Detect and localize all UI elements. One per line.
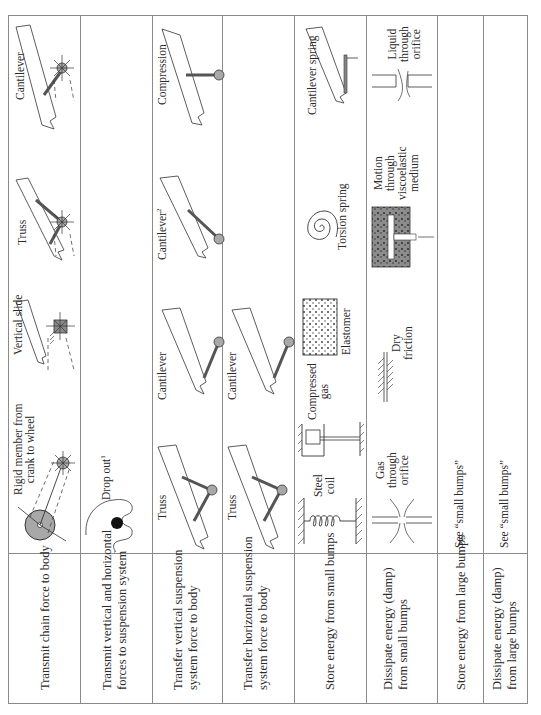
function-label-transmit-forces: Transmit vertical and horizontalforces t…	[100, 530, 129, 690]
dry-friction-sketch-icon	[376, 350, 396, 405]
torsion-spring-sketch-icon	[300, 205, 340, 250]
truss-sketch-icon	[226, 445, 291, 550]
cantilever-sketch-icon	[156, 168, 221, 273]
steel-coil-sketch-icon	[298, 498, 364, 550]
function-label-store-large: Store energy from large bumps	[454, 535, 469, 690]
compression-sketch-icon	[156, 25, 221, 130]
concept-label-compressed-gas: Compressedgas	[306, 363, 330, 420]
drop-out-sketch-icon	[84, 480, 144, 552]
function-label-dissipate-small: Dissipate energy (damp)from small bumps	[381, 567, 410, 690]
vertical-slide-sketch-icon	[14, 290, 76, 390]
concept-label-viscoelastic: Motionthroughviscoelasticmedium	[372, 146, 420, 200]
cantilever-spring-sketch-icon	[304, 25, 364, 105]
row-divider	[80, 15, 81, 704]
function-label-dissipate-large: Dissipate energy (damp)from large bumps	[490, 567, 519, 690]
crank-wheel-sketch-icon	[14, 445, 76, 550]
truss-sketch-icon	[14, 170, 76, 270]
cantilever-sketch-icon	[14, 25, 76, 135]
elastomer-sketch-icon	[302, 298, 338, 358]
function-label-transmit-chain: Transmit chain force to body	[38, 545, 53, 690]
truss-sketch-icon	[156, 445, 221, 550]
concept-label-liquid-orifice: Liquidthroughorifice	[386, 26, 422, 62]
cantilever-sketch-icon	[226, 300, 291, 405]
row-divider	[437, 15, 438, 704]
gas-orifice-sketch-icon	[370, 495, 434, 551]
concept-label-see-small-bumps: See “small bumps”	[453, 460, 465, 548]
concept-label-see-small-bumps: See “small bumps”	[498, 460, 510, 548]
viscoelastic-sketch-icon	[370, 205, 436, 269]
function-label-store-small: Store energy from small bumps	[323, 533, 338, 690]
function-label-transfer-vertical: Transfer vertical suspensionsystem force…	[171, 550, 200, 691]
row-divider	[222, 15, 223, 704]
row-divider	[366, 15, 367, 704]
liquid-orifice-sketch-icon	[370, 65, 434, 120]
row-divider	[294, 15, 295, 704]
concept-label-gas-orifice: Gasthroughorifice	[374, 452, 410, 488]
row-divider	[483, 15, 484, 704]
compressed-gas-sketch-icon	[298, 420, 364, 490]
cantilever-sketch-icon	[156, 300, 221, 405]
function-label-transfer-horizontal: Transfer horizontal suspensionsystem for…	[241, 536, 270, 690]
row-divider	[152, 15, 153, 704]
concept-label-elastomer: Elastomer	[340, 308, 352, 355]
